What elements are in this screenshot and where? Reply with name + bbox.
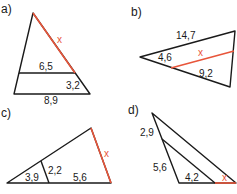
measure-base-left-c: 3,9 — [25, 172, 39, 183]
measure-base-a: 8,9 — [44, 95, 58, 106]
problem-c-label: c) — [1, 106, 11, 120]
problem-c: c) x 3,9 2,2 5,6 — [1, 106, 111, 183]
measure-upper-left-d: 2,9 — [140, 127, 154, 138]
measure-lower-left-d: 5,6 — [153, 162, 167, 173]
measure-lower-segment-a: 3,2 — [66, 80, 80, 91]
measure-inner-parallel-c: 2,2 — [48, 165, 62, 176]
problem-d: d) x 2,9 5,6 4,2 — [128, 103, 236, 183]
unknown-label-c: x — [104, 148, 109, 159]
measure-base-d: 4,2 — [185, 172, 199, 183]
measure-base-right-c: 5,6 — [73, 172, 87, 183]
problem-a: a) x 6,5 3,2 8,9 — [1, 2, 90, 106]
problem-d-label: d) — [128, 103, 139, 117]
problem-b-label: b) — [131, 5, 142, 19]
measure-lower-segment-b: 9,2 — [199, 68, 213, 79]
measure-left-segment-b: 4,6 — [158, 52, 172, 63]
problem-a-label: a) — [1, 2, 12, 16]
unknown-label-a: x — [57, 34, 62, 45]
unknown-label-d: x — [222, 172, 227, 183]
measure-inner-parallel-a: 6,5 — [39, 61, 53, 72]
problem-b: b) x 14,7 4,6 9,2 — [131, 5, 235, 87]
similar-triangles-figure: a) x 6,5 3,2 8,9 b) x 14,7 4,6 9,2 c) x … — [0, 0, 237, 194]
measure-top-side-b: 14,7 — [176, 30, 196, 41]
unknown-label-b: x — [198, 47, 203, 58]
